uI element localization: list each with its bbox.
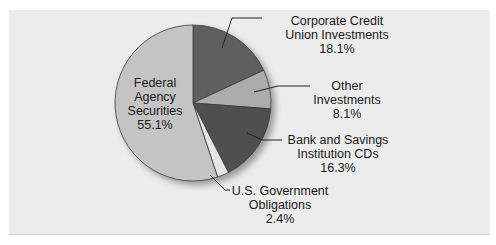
label-usgov-line2: Obligations [225, 198, 335, 212]
label-corporate-line2: Union Investments [262, 28, 412, 42]
label-other-pct: 8.1% [292, 107, 402, 121]
label-bank-line1: Bank and Savings [278, 133, 398, 147]
label-federal-line2: Agency [115, 90, 195, 104]
label-usgov-line1: U.S. Government [225, 184, 335, 198]
label-corporate-pct: 18.1% [262, 42, 412, 56]
label-usgov-pct: 2.4% [225, 212, 335, 226]
label-other-line2: Investments [292, 93, 402, 107]
label-usgov: U.S. Government Obligations 2.4% [225, 184, 335, 226]
label-corporate-line1: Corporate Credit [262, 14, 412, 28]
label-corporate: Corporate Credit Union Investments 18.1% [262, 14, 412, 56]
label-bank-pct: 16.3% [278, 161, 398, 175]
label-other-line1: Other [292, 79, 402, 93]
label-federal: Federal Agency Securities 55.1% [115, 76, 195, 132]
label-federal-pct: 55.1% [115, 118, 195, 132]
label-bank: Bank and Savings Institution CDs 16.3% [278, 133, 398, 175]
label-federal-line1: Federal [115, 76, 195, 90]
label-federal-line3: Securities [115, 104, 195, 118]
label-other: Other Investments 8.1% [292, 79, 402, 121]
label-bank-line2: Institution CDs [278, 147, 398, 161]
